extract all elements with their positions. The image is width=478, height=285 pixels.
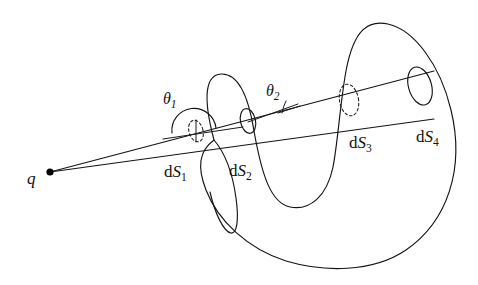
surface-element-ds4 [404,64,437,108]
charge-point [46,168,53,175]
gauss-law-cone-diagram: q θ1 θ2 dS1 dS2 dS3 dS4 [0,0,478,285]
ds2-ellipse [238,107,258,135]
ds4-ellipse [404,64,437,108]
cone-upper-ray [50,71,434,172]
ds1-label: dS1 [164,162,187,183]
cone-rays [50,71,434,172]
ds4-label: dS4 [416,127,439,148]
ds2-normal-line [248,104,298,122]
ds2-label: dS2 [229,161,252,182]
ds3-label: dS3 [349,133,372,154]
theta2-angle-marker [248,101,300,122]
surface-element-ds2 [238,107,258,135]
theta1-label: θ1 [163,90,177,110]
theta2-label: θ2 [266,82,280,102]
figure-canvas: q θ1 θ2 dS1 dS2 dS3 dS4 [0,0,478,285]
charge-label: q [27,169,36,188]
